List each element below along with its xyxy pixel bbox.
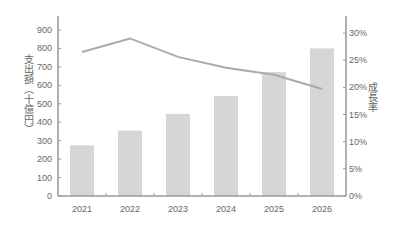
chart: 0100200300400500600700800900 0%5%10%15%2… <box>0 0 398 229</box>
x-tick-label: 2026 <box>312 204 332 214</box>
y2-tick-label: 25% <box>349 55 367 65</box>
y2-tick-label: 5% <box>349 164 362 174</box>
x-tick-label: 2023 <box>168 204 188 214</box>
bar-2022 <box>118 131 142 196</box>
x-tick-label: 2025 <box>264 204 284 214</box>
y2-tick-label: 30% <box>349 28 367 38</box>
bar-2021 <box>70 145 94 196</box>
x-tick-label: 2021 <box>72 204 92 214</box>
y2-tick-label: 20% <box>349 82 367 92</box>
y-tick-label: 300 <box>37 136 52 146</box>
y-tick-label: 600 <box>37 80 52 90</box>
y-tick-label: 200 <box>37 154 52 164</box>
left-axis-tick-labels: 0100200300400500600700800900 <box>37 25 52 201</box>
axes <box>58 16 346 196</box>
bar-series <box>70 48 334 196</box>
y2-tick-label: 15% <box>349 110 367 120</box>
y-tick-label: 800 <box>37 43 52 53</box>
right-axis-tick-labels: 0%5%10%15%20%25%30% <box>349 28 367 201</box>
y-tick-label: 900 <box>37 25 52 35</box>
bar-2023 <box>166 114 190 196</box>
y2-tick-label: 0% <box>349 191 362 201</box>
y-tick-label: 400 <box>37 117 52 127</box>
x-tick-label: 2022 <box>120 204 140 214</box>
y-tick-label: 700 <box>37 62 52 72</box>
x-tick-label: 2024 <box>216 204 236 214</box>
y-tick-label: 500 <box>37 99 52 109</box>
bar-2025 <box>262 72 286 196</box>
bar-2024 <box>214 96 238 196</box>
y-tick-label: 100 <box>37 173 52 183</box>
left-axis-title: 支出額（十億円） <box>22 54 33 134</box>
right-axis-title: 成長率 <box>366 82 377 112</box>
x-axis-tick-labels: 202120222023202420252026 <box>72 204 332 214</box>
y-tick-label: 0 <box>47 191 52 201</box>
bar-2026 <box>310 48 334 196</box>
y2-tick-label: 10% <box>349 137 367 147</box>
